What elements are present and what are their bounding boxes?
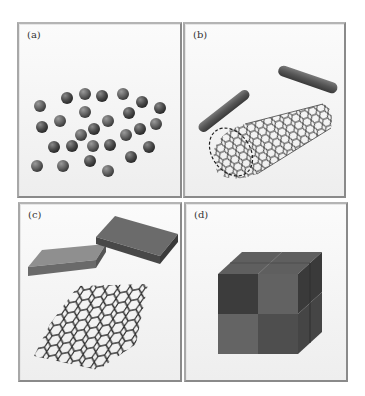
cube-front-q1: [218, 274, 258, 314]
panel-b-nanotubes: (b): [183, 22, 346, 198]
nanotube-illustration: [185, 24, 344, 196]
cube-front-q4: [258, 314, 298, 354]
graphene-illustration: [20, 204, 180, 380]
graphene-sheet: [34, 284, 148, 370]
cube-illustration: [186, 204, 346, 380]
cube-front-q2: [258, 274, 298, 314]
sphere-group: [31, 88, 166, 177]
nanoplate-right: [96, 216, 178, 264]
panel-c-graphene: (c): [18, 202, 182, 382]
nanoparticles-illustration: [19, 24, 180, 196]
cube-front-q3: [218, 314, 258, 354]
panel-a-nanoparticles: (a): [17, 22, 182, 198]
nanorod-right: [277, 64, 339, 95]
nanoplate-left: [28, 244, 106, 276]
panel-d-bulk-cube: (d): [184, 202, 348, 382]
